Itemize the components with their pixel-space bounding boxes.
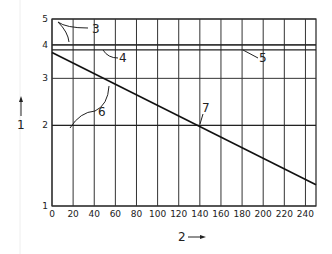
x-tick-label: 100 (149, 209, 166, 219)
annotation-4: 4 (119, 51, 127, 65)
y-tick-label: 2 (42, 120, 48, 130)
y-axis-title: 1 (17, 118, 25, 132)
annotation-6: 6 (98, 105, 106, 119)
series (52, 52, 316, 184)
x-tick-label: 20 (67, 209, 79, 219)
chart: 02040608010012014016018020022024012345 3… (0, 0, 332, 254)
x-tick-label: 240 (297, 209, 314, 219)
x-tick-label: 40 (89, 209, 101, 219)
y-tick-label: 1 (42, 201, 48, 211)
x-tick-label: 200 (255, 209, 272, 219)
x-axis-title: 2 (178, 230, 186, 244)
y-tick-label: 4 (42, 40, 48, 50)
x-tick-label: 160 (212, 209, 229, 219)
y-tick-label: 3 (42, 73, 48, 83)
x-tick-label: 60 (110, 209, 122, 219)
x-tick-label: 0 (49, 209, 55, 219)
plot-frame (52, 19, 316, 206)
y-tick-label: 5 (42, 14, 48, 24)
x-arrow-head-icon (200, 235, 206, 239)
annotation-3: 3 (92, 22, 100, 36)
data-line (52, 52, 316, 184)
grid (52, 19, 316, 206)
x-tick-label: 140 (191, 209, 208, 219)
arrow-7 (200, 114, 203, 124)
x-tick-label: 120 (170, 209, 187, 219)
arrow-5 (243, 50, 258, 58)
annotation-5: 5 (259, 51, 267, 65)
x-tick-label: 180 (233, 209, 250, 219)
x-tick-label: 220 (276, 209, 293, 219)
x-tick-label: 80 (131, 209, 143, 219)
annotation-7: 7 (202, 101, 210, 115)
